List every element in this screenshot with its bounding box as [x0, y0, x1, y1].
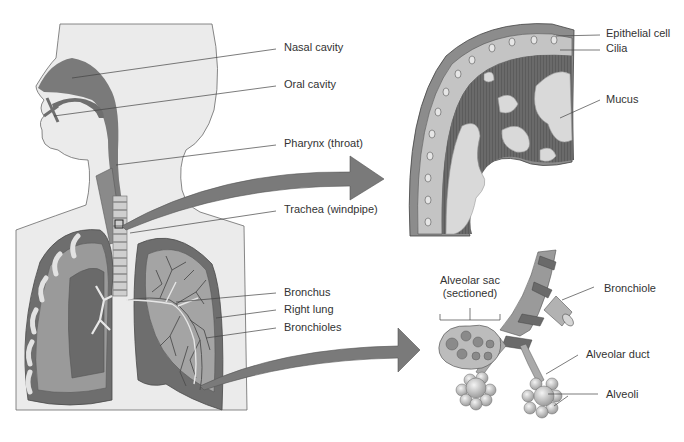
label-oral-cavity: Oral cavity [284, 78, 336, 91]
respiratory-system-diagram: Nasal cavity Oral cavity Pharynx (throat… [0, 0, 684, 442]
epithelium-inset [409, 24, 574, 236]
label-trachea: Trachea (windpipe) [284, 203, 378, 216]
label-alveolar-sac: Alveolar sac (sectioned) [432, 274, 508, 300]
label-alveolar-duct: Alveolar duct [586, 348, 650, 361]
alveoli-cluster-left [456, 372, 496, 410]
body-figure [16, 24, 247, 410]
leader-bronchiole [562, 287, 594, 300]
leader-alveolar-duct [546, 355, 578, 374]
label-bronchus: Bronchus [284, 286, 330, 299]
label-cilia: Cilia [606, 42, 627, 55]
label-epithelial-cell: Epithelial cell [606, 27, 670, 40]
label-right-lung: Right lung [284, 303, 334, 316]
label-nasal-cavity: Nasal cavity [284, 41, 343, 54]
label-pharynx: Pharynx (throat) [284, 137, 363, 150]
label-alveolar-sac-subtitle: (sectioned) [432, 287, 508, 300]
alveolar-sac-sectioned [439, 325, 501, 369]
alveolar-sac-bracket [440, 308, 500, 320]
alveoli-cluster-right [522, 378, 562, 418]
label-alveoli: Alveoli [606, 388, 638, 401]
label-alveolar-sac-title: Alveolar sac [432, 274, 508, 287]
label-bronchioles: Bronchioles [284, 321, 341, 334]
label-bronchiole: Bronchiole [604, 282, 656, 295]
label-mucus: Mucus [606, 93, 638, 106]
trachea [113, 196, 127, 296]
